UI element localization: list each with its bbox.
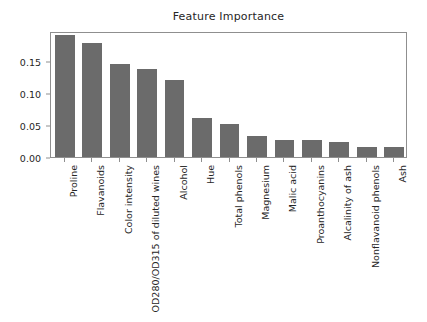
bar [137,69,157,157]
plot-area [50,32,407,158]
x-tick-mark [311,158,312,162]
chart-title: Feature Importance [50,10,407,23]
y-tick-label: 0.15 [20,56,41,67]
x-tick-mark [256,158,257,162]
x-tick-label: OD280/OD315 of diluted wines [150,165,161,312]
bar [82,43,102,157]
x-tick-label: Proline [68,165,79,197]
x-tick-label: Magnesium [260,165,271,220]
x-tick-label: Malic acid [287,165,298,212]
x-tick-label: Alcalinity of ash [342,165,353,240]
x-tick-label: Proanthocyanins [315,165,326,244]
bars-layer [51,33,406,157]
bar [357,147,377,157]
x-tick-label: Hue [205,165,216,184]
bar [275,140,295,157]
bar [55,35,75,157]
y-axis: 0.000.050.100.15 [0,32,50,158]
x-tick-mark [201,158,202,162]
bar [384,147,404,157]
x-tick-mark [146,158,147,162]
x-tick-label: Alcohol [178,165,189,200]
x-tick-mark [229,158,230,162]
x-tick-label: Nonflavanoid phenols [370,165,381,268]
bar [110,64,130,157]
figure-canvas: Feature Importance 0.000.050.100.15 Prol… [0,0,427,322]
bar [220,124,240,157]
x-tick-mark [119,158,120,162]
y-tick-label: 0.10 [20,88,41,99]
x-tick-label: Color intensity [123,165,134,234]
bar [302,140,322,157]
x-axis: ProlineFlavanoidsColor intensityOD280/OD… [50,158,407,322]
x-tick-mark [393,158,394,162]
y-tick-label: 0.05 [20,120,41,131]
x-tick-mark [64,158,65,162]
bar [329,142,349,157]
bar [165,80,185,157]
x-tick-label: Flavanoids [95,165,106,216]
x-tick-mark [283,158,284,162]
x-tick-mark [338,158,339,162]
x-tick-mark [174,158,175,162]
bar [192,118,212,157]
x-tick-label: Ash [397,165,408,182]
x-tick-mark [91,158,92,162]
x-tick-label: Total phenols [233,165,244,228]
bar [247,136,267,157]
y-tick-label: 0.00 [20,153,41,164]
x-tick-mark [366,158,367,162]
